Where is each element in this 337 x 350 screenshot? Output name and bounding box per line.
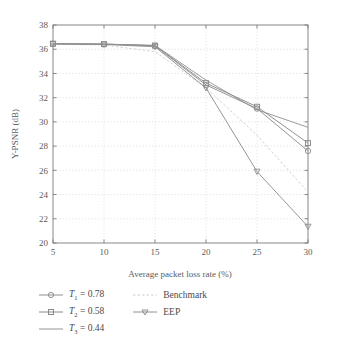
x-tick-label: 25 [253, 247, 263, 257]
legend-item-t2: T2 = 0.58 [38, 305, 104, 319]
legend-item-t1: T1 = 0.78 [38, 288, 104, 302]
legend-item-t3: T3 = 0.44 [38, 322, 104, 336]
y-tick-label: 36 [39, 44, 49, 54]
y-axis-title: Y-PSNR (dB) [10, 109, 20, 159]
axes-frame [53, 25, 308, 243]
y-tick-label: 32 [39, 93, 48, 103]
axis-tick-labels: 2022242628303234363851015202530 [39, 20, 313, 257]
gridlines [53, 25, 308, 243]
series-eep [50, 41, 311, 229]
y-tick-label: 34 [39, 69, 49, 79]
legend-label-t3: T3 = 0.44 [69, 323, 104, 335]
legend-column-right: Benchmark EEP [132, 288, 207, 336]
series-t2-0-58 [51, 41, 311, 145]
legend-label-t1: T1 = 0.78 [69, 289, 104, 301]
x-tick-label: 5 [51, 247, 56, 257]
legend-key-triangle [132, 306, 158, 318]
y-tick-label: 28 [39, 141, 49, 151]
legend-label-t2: T2 = 0.58 [69, 306, 104, 318]
series-benchmark [53, 44, 308, 192]
axis-ticks [53, 25, 308, 243]
y-tick-label: 20 [39, 238, 49, 248]
x-tick-label: 20 [202, 247, 212, 257]
legend-key-circle [38, 289, 64, 301]
x-axis-title: Average packet loss rate (%) [128, 269, 231, 279]
y-tick-label: 30 [39, 117, 49, 127]
legend-key-square [38, 306, 64, 318]
series-t1-0-78 [50, 41, 310, 154]
chart-legend: T1 = 0.78 T2 = 0.58 T3 = 0.44 [0, 286, 337, 350]
legend-item-eep: EEP [132, 305, 207, 319]
y-tick-label: 26 [39, 166, 49, 176]
legend-label-eep: EEP [163, 307, 180, 317]
y-tick-label: 22 [39, 214, 48, 224]
legend-key-dotted-line [132, 289, 158, 301]
legend-item-benchmark: Benchmark [132, 288, 207, 302]
y-tick-label: 24 [39, 190, 49, 200]
legend-column-left: T1 = 0.78 T2 = 0.58 T3 = 0.44 [38, 288, 104, 336]
x-tick-label: 10 [100, 247, 110, 257]
x-tick-label: 30 [304, 247, 314, 257]
series-t3-0-44 [53, 44, 308, 128]
legend-key-plain-line [38, 323, 64, 335]
y-tick-label: 38 [39, 20, 49, 30]
legend-label-benchmark: Benchmark [163, 290, 207, 300]
x-tick-label: 15 [151, 247, 161, 257]
data-series [50, 41, 311, 230]
